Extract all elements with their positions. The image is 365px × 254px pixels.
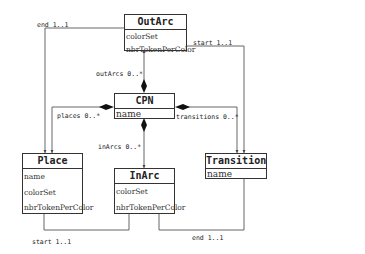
class-inarc[interactable]: InArc colorSet nbrTokenPerColor <box>114 168 175 214</box>
class-name: OutArc <box>125 15 186 30</box>
attributes: colorSet nbrTokenPerColor <box>125 30 186 56</box>
attributes: name <box>115 109 174 119</box>
diamond-icon <box>175 104 190 110</box>
class-name: Place <box>23 154 82 169</box>
diamond-icon <box>99 104 114 110</box>
attribute: colorSet <box>116 184 174 200</box>
label-inarcs: inArcs 0..* <box>98 143 141 151</box>
attribute: nbrTokenPerColor <box>126 43 186 56</box>
label-places: places 0..* <box>57 112 100 120</box>
outarc-end-line <box>45 28 124 153</box>
label-outarc-end: end 1..1 <box>37 21 68 29</box>
class-place[interactable]: Place name colorSet nbrTokenPerColor <box>22 153 83 214</box>
diamond-icon <box>141 118 147 132</box>
attributes: colorSet nbrTokenPerColor <box>115 184 174 215</box>
outarc-start-line <box>186 46 244 153</box>
label-inarc-start: start 1..1 <box>32 238 71 246</box>
label-inarc-end: end 1..1 <box>192 234 223 242</box>
attribute: colorSet <box>126 30 186 43</box>
class-outarc[interactable]: OutArc colorSet nbrTokenPerColor <box>124 14 187 51</box>
attribute: name <box>24 169 82 185</box>
label-transitions: transitions 0..* <box>176 113 239 121</box>
label-outarc-start: start 1..1 <box>193 39 232 47</box>
class-transition[interactable]: Transition name <box>205 153 267 179</box>
class-cpn[interactable]: CPN name <box>114 93 175 119</box>
label-outarcs: outArcs 0..* <box>96 70 143 78</box>
diamond-icon <box>141 79 147 93</box>
uml-class-diagram: OutArc colorSet nbrTokenPerColor CPN nam… <box>0 0 365 254</box>
class-name: CPN <box>115 94 174 109</box>
attributes: name <box>206 169 266 179</box>
attribute: name <box>207 169 266 179</box>
attribute: name <box>116 109 174 119</box>
attributes: name colorSet nbrTokenPerColor <box>23 169 82 215</box>
inarc-start-line <box>44 213 129 230</box>
class-name: InArc <box>115 169 174 184</box>
attribute: nbrTokenPerColor <box>24 200 82 215</box>
class-name: Transition <box>206 154 266 169</box>
attribute: colorSet <box>24 185 82 200</box>
attribute: nbrTokenPerColor <box>116 200 174 215</box>
